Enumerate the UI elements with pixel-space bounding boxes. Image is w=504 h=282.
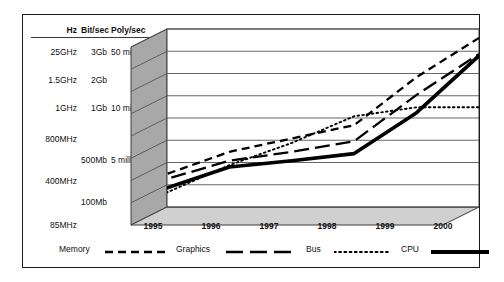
plot-area	[129, 21, 479, 241]
x-tick-label: 1996	[191, 221, 231, 231]
legend-swatch-bus	[334, 249, 390, 259]
scale-cell-hz: 800MHz	[31, 134, 77, 144]
scale-cell-hz: 1.5GHz	[31, 75, 77, 85]
chart-canvas	[129, 21, 479, 241]
legend-swatch-cpu	[431, 249, 489, 259]
scale-cell-bitsec: 3Gb	[81, 47, 107, 57]
scale-cell-bitsec: 500Mb	[81, 155, 107, 165]
legend-label-graphics: Graphics	[176, 244, 210, 254]
legend-label-memory: Memory	[59, 244, 90, 254]
legend-label-bus: Bus	[306, 244, 321, 254]
scale-cell-hz: 25GHz	[31, 47, 77, 57]
legend-label-cpu: CPU	[401, 244, 419, 254]
x-tick-label: 1997	[249, 221, 289, 231]
scale-cell-hz: 400MHz	[31, 176, 77, 186]
scale-header-bitsec: Bit/sec	[81, 25, 107, 35]
chart-figure: Hz Bit/sec Poly/sec 25GHz 3Gb 50 million…	[22, 14, 480, 268]
scale-cell-bitsec: 2Gb	[81, 75, 107, 85]
chart-legend: Memory Graphics Bus	[23, 241, 481, 263]
x-axis: 1995 1996 1997 1998 1999 2000	[23, 221, 481, 237]
scale-cell-hz: 1GHz	[31, 103, 77, 113]
legend-swatch-memory	[105, 249, 165, 259]
x-tick-label: 1999	[365, 221, 405, 231]
legend-swatch-graphics	[226, 249, 292, 259]
x-tick-label: 1995	[133, 221, 173, 231]
scale-cell-bitsec: 1Gb	[81, 103, 107, 113]
x-tick-label: 1998	[307, 221, 347, 231]
scale-cell-bitsec: 100Mb	[81, 197, 107, 207]
scale-header-hz: Hz	[31, 25, 77, 35]
x-tick-label: 2000	[423, 221, 463, 231]
